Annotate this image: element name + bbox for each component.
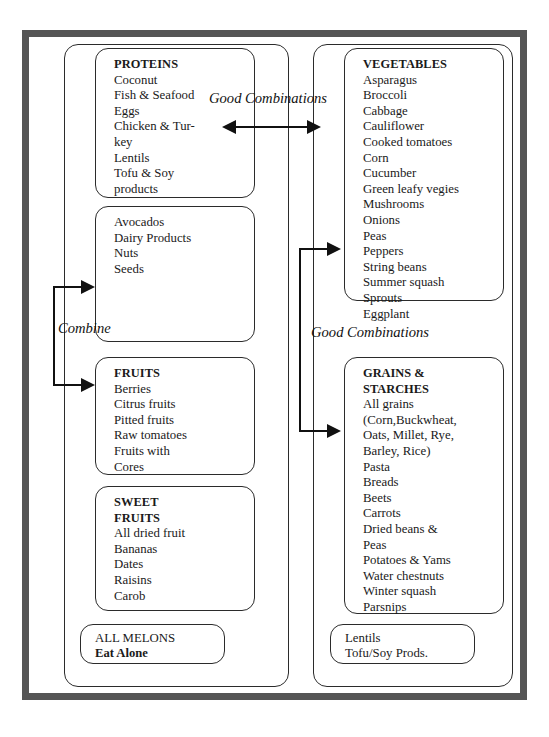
list-item: Pitted fruits <box>114 413 254 429</box>
list-item: Carrots <box>363 506 503 522</box>
food-group-legumes[interactable]: Lentils Tofu/Soy Prods. <box>330 624 475 664</box>
list-item: Dates <box>114 557 254 573</box>
grains-header-line2: STARCHES <box>363 382 503 398</box>
list-item: Breads <box>363 475 503 491</box>
grains-list: All grains (Corn,Buckwheat, Oats, Millet… <box>363 397 503 615</box>
fats-list: Avocados Dairy Products Nuts Seeds <box>114 215 254 277</box>
list-item: Nuts <box>114 246 254 262</box>
list-item: Dried beans & <box>363 522 503 538</box>
list-item: Barley, Rice) <box>363 444 503 460</box>
list-item: Tofu & Soy <box>114 166 254 182</box>
legumes-list: Lentils Tofu/Soy Prods. <box>345 631 474 662</box>
food-group-fats[interactable]: Avocados Dairy Products Nuts Seeds <box>95 206 255 342</box>
vegetables-header: VEGETABLES <box>363 57 503 73</box>
list-item: All grains <box>363 397 503 413</box>
sweet-fruits-header-line2: FRUITS <box>114 511 254 527</box>
food-group-grains-starches[interactable]: GRAINS & STARCHES All grains (Corn,Buckw… <box>344 357 504 614</box>
label-good-combinations-bottom: Good Combinations <box>311 324 429 341</box>
list-item: Parsnips <box>363 600 503 616</box>
list-item: Cores <box>114 460 254 476</box>
list-item: Water chestnuts <box>363 569 503 585</box>
list-item: Onions <box>363 213 503 229</box>
arrow-head-right-icon <box>327 424 341 438</box>
list-item: Cauliflower <box>363 119 503 135</box>
list-item: Sprouts <box>363 291 503 307</box>
list-item: Raisins <box>114 573 254 589</box>
list-item: Broccoli <box>363 88 503 104</box>
list-item: Oats, Millet, Rye, <box>363 428 503 444</box>
list-item: (Corn,Buckwheat, <box>363 413 503 429</box>
list-item: Beets <box>363 491 503 507</box>
list-item: Peas <box>363 538 503 554</box>
arrow-head-right-icon <box>327 242 341 256</box>
double-arrow-line <box>233 126 311 128</box>
list-item: Fruits with <box>114 444 254 460</box>
list-item: Lentils <box>114 151 254 167</box>
list-item: Dairy Products <box>114 231 254 247</box>
proteins-header: PROTEINS <box>114 57 254 73</box>
arrow-head-right-icon <box>81 378 95 392</box>
list-item: Pasta <box>363 460 503 476</box>
list-item: Peppers <box>363 244 503 260</box>
sweet-fruits-header-line1: SWEET <box>114 495 254 511</box>
list-item: products <box>114 182 254 198</box>
list-item: String beans <box>363 260 503 276</box>
arrow-head-left-icon <box>222 120 236 134</box>
combine-bracket-vertical <box>53 286 55 386</box>
list-item: Raw tomatoes <box>114 428 254 444</box>
arrow-head-right-icon <box>81 280 95 294</box>
melons-label: ALL MELONS <box>95 631 224 646</box>
list-item: Eggplant <box>363 307 503 323</box>
food-group-sweet-fruits[interactable]: SWEET FRUITS All dried fruit Bananas Dat… <box>95 486 255 611</box>
list-item: Summer squash <box>363 275 503 291</box>
list-item: Winter squash <box>363 584 503 600</box>
list-item: Asparagus <box>363 73 503 89</box>
list-item: Coconut <box>114 73 254 89</box>
list-item: Cooked tomatoes <box>363 135 503 151</box>
list-item: Green leafy vegies <box>363 182 503 198</box>
food-group-melons[interactable]: ALL MELONS Eat Alone <box>80 624 225 664</box>
list-item: Mushrooms <box>363 197 503 213</box>
list-item: Citrus fruits <box>114 397 254 413</box>
list-item: Corn <box>363 151 503 167</box>
list-item: Bananas <box>114 542 254 558</box>
list-item: Cucumber <box>363 166 503 182</box>
food-group-vegetables[interactable]: VEGETABLES Asparagus Broccoli Cabbage Ca… <box>344 48 504 301</box>
label-combine: Combine <box>58 320 111 337</box>
list-item: key <box>114 135 254 151</box>
list-item: Lentils <box>345 631 474 646</box>
vegetables-list: Asparagus Broccoli Cabbage Cauliflower C… <box>363 73 503 323</box>
list-item: Tofu/Soy Prods. <box>345 646 474 661</box>
list-item: Peas <box>363 229 503 245</box>
fruits-header: FRUITS <box>114 366 254 382</box>
list-item: Carob <box>114 589 254 605</box>
melons-instruction: Eat Alone <box>95 646 224 661</box>
sweet-fruits-list: All dried fruit Bananas Dates Raisins Ca… <box>114 526 254 604</box>
list-item: Potatoes & Yams <box>363 553 503 569</box>
label-good-combinations-top: Good Combinations <box>209 90 327 107</box>
arrow-head-right-icon <box>307 120 321 134</box>
list-item: Berries <box>114 382 254 398</box>
food-group-fruits[interactable]: FRUITS Berries Citrus fruits Pitted frui… <box>95 357 255 475</box>
grains-header-line1: GRAINS & <box>363 366 503 382</box>
fruits-list: Berries Citrus fruits Pitted fruits Raw … <box>114 382 254 476</box>
good-combinations-bracket-vertical <box>299 248 301 432</box>
list-item: Cabbage <box>363 104 503 120</box>
list-item: All dried fruit <box>114 526 254 542</box>
list-item: Seeds <box>114 262 254 278</box>
list-item: Avocados <box>114 215 254 231</box>
